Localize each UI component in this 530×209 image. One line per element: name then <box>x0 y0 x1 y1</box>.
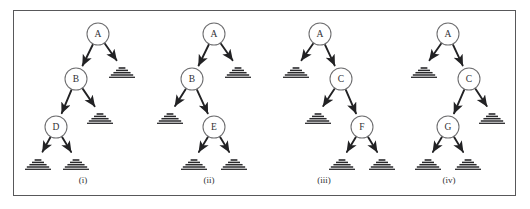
tree-edge-arrow <box>197 90 208 113</box>
leaf-node-marker <box>455 160 481 169</box>
tree-node-a: A <box>437 23 459 45</box>
tree-edge-arrow <box>83 45 93 66</box>
panel-caption: (iv) <box>443 175 456 185</box>
leaf-node-marker <box>157 114 183 123</box>
node-label: G <box>445 122 452 132</box>
tree-panel: ACF(iii) <box>283 23 395 185</box>
tree-node-e: E <box>203 116 225 138</box>
tree-edge-arrow <box>346 90 356 113</box>
tree-edge-arrow <box>175 89 186 106</box>
tree-edge-arrow <box>105 44 117 60</box>
node-label: D <box>53 122 60 132</box>
node-label: A <box>445 29 452 39</box>
tree-panel: ABD(i) <box>25 23 135 185</box>
node-label: A <box>211 29 218 39</box>
leaf-node-marker <box>479 114 505 123</box>
tree-edge-arrow <box>323 89 334 106</box>
tree-edge-arrow <box>221 44 233 60</box>
leaf-node-marker <box>369 160 395 169</box>
tree-edge-arrow <box>368 137 377 152</box>
leaf-node-marker <box>63 160 89 169</box>
binary-tree-figure: ABD(i)ABE(ii)ACF(iii)ACG(iv) <box>0 0 530 209</box>
tree-edge-arrow <box>347 137 356 152</box>
tree-panel: ACG(iv) <box>411 23 505 185</box>
tree-edge-arrow <box>454 90 464 113</box>
panel-caption: (iii) <box>317 175 331 185</box>
tree-node-f: F <box>351 116 373 138</box>
tree-edge-arrow <box>43 138 51 152</box>
leaf-node-marker <box>415 160 441 169</box>
leaf-node-marker <box>305 114 331 123</box>
tree-node-c: C <box>458 68 480 90</box>
node-label: B <box>73 74 79 84</box>
tree-edge-arrow <box>429 44 441 60</box>
tree-node-g: G <box>437 116 459 138</box>
tree-node-a: A <box>87 23 109 45</box>
tree-edge-arrow <box>301 44 313 60</box>
leaf-node-marker <box>329 160 355 169</box>
tree-leaves <box>157 68 251 169</box>
leaf-node-marker <box>411 68 437 77</box>
leaf-node-marker <box>109 68 135 77</box>
leaf-node-marker <box>181 160 207 169</box>
tree-nodes: ABE <box>181 23 225 138</box>
tree-edge-arrow <box>325 45 335 66</box>
tree-node-b: B <box>181 68 203 90</box>
node-label: A <box>317 29 324 39</box>
node-label: C <box>338 74 344 84</box>
tree-edge-arrow <box>62 90 72 113</box>
node-label: B <box>189 74 195 84</box>
tree-panel: ABE(ii) <box>157 23 251 185</box>
tree-edges <box>175 44 232 152</box>
leaf-node-marker <box>221 160 247 169</box>
figure-root: ABD(i)ABE(ii)ACF(iii)ACG(iv) <box>0 0 530 209</box>
tree-node-c: C <box>330 68 352 90</box>
panel-caption: (i) <box>79 175 88 185</box>
leaf-node-marker <box>283 68 309 77</box>
tree-node-a: A <box>309 23 331 45</box>
tree-edge-arrow <box>220 137 229 152</box>
tree-nodes: ACG <box>437 23 480 138</box>
tree-edge-arrow <box>453 45 463 66</box>
tree-edge-arrow <box>476 89 487 106</box>
tree-panels-layer: ABD(i)ABE(ii)ACF(iii)ACG(iv) <box>25 23 505 185</box>
tree-edge-arrow <box>199 45 209 66</box>
tree-edge-arrow <box>433 137 442 152</box>
leaf-node-marker <box>87 114 113 123</box>
tree-edge-arrow <box>83 89 95 106</box>
panel-caption: (ii) <box>204 175 215 185</box>
tree-leaves <box>411 68 505 169</box>
tree-node-b: B <box>65 68 87 90</box>
leaf-node-marker <box>225 68 251 77</box>
leaf-node-marker <box>25 160 51 169</box>
node-label: F <box>359 122 364 132</box>
tree-edge-arrow <box>62 137 71 152</box>
tree-edges <box>429 44 486 152</box>
tree-edge-arrow <box>199 137 208 152</box>
tree-node-d: D <box>45 116 67 138</box>
tree-node-a: A <box>203 23 225 45</box>
node-label: E <box>211 122 217 132</box>
tree-edge-arrow <box>454 137 463 152</box>
node-label: C <box>466 74 472 84</box>
node-label: A <box>95 29 102 39</box>
